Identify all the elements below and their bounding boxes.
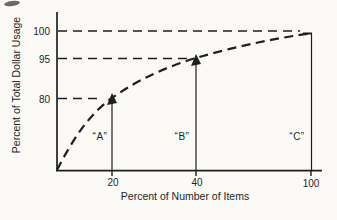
abc-analysis-chart: 100 95 80 20 40 100 “A” “B” “C” Percent … xyxy=(0,0,337,220)
cumulative-usage-curve xyxy=(57,34,311,171)
x-tick-label-40: 40 xyxy=(191,177,203,188)
y-tick-label-100: 100 xyxy=(33,26,50,37)
x-axis-title: Percent of Number of Items xyxy=(121,190,249,202)
y-axis-title: Percent of Total Dollar Usage xyxy=(10,17,22,154)
x-tick-label-100: 100 xyxy=(303,178,320,189)
x-tick-label-20: 20 xyxy=(107,177,119,188)
zone-label-c: “C” xyxy=(289,131,304,142)
zone-label-a: “A” xyxy=(93,131,108,142)
chart-canvas: 100 95 80 20 40 100 “A” “B” “C” Percent … xyxy=(0,0,337,220)
y-tick-label-80: 80 xyxy=(39,94,51,105)
y-tick-label-95: 95 xyxy=(39,54,51,65)
zone-label-b: “B” xyxy=(175,131,190,142)
